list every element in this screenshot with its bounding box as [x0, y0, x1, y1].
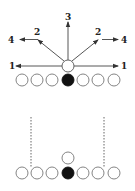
- player-circle: [16, 167, 28, 179]
- top-line-players: [16, 74, 120, 86]
- player-circle: [46, 167, 58, 179]
- route-arrows: [16, 22, 118, 66]
- player-circle: [92, 167, 104, 179]
- player-circle: [77, 74, 89, 86]
- player-circle: [108, 167, 120, 179]
- center-filled-circle: [62, 74, 74, 86]
- player-circle: [92, 74, 104, 86]
- player-circle: [16, 74, 28, 86]
- back-player-circle: [62, 152, 74, 164]
- label-left-4: 4: [8, 35, 14, 45]
- player-circle: [77, 167, 89, 179]
- bottom-line-players: [16, 167, 120, 179]
- center-player-circle: [62, 60, 74, 72]
- label-top-3: 3: [65, 12, 71, 22]
- label-right-1: 1: [121, 61, 127, 71]
- player-circle: [46, 74, 58, 86]
- label-right-4: 4: [121, 35, 127, 45]
- player-circle: [31, 167, 43, 179]
- label-right-2: 2: [95, 27, 101, 37]
- arrow-2-left: [38, 40, 64, 61]
- label-left-1: 1: [9, 61, 15, 71]
- formation-diagram: 1 1 3 2 2 4 4: [0, 0, 135, 191]
- top-diagram: 1 1 3 2 2 4 4: [8, 12, 127, 86]
- center-filled-circle: [62, 167, 74, 179]
- player-circle: [31, 74, 43, 86]
- player-circle: [108, 74, 120, 86]
- label-left-2: 2: [34, 27, 40, 37]
- arrow-2-right: [72, 40, 98, 61]
- bottom-diagram: [16, 117, 120, 179]
